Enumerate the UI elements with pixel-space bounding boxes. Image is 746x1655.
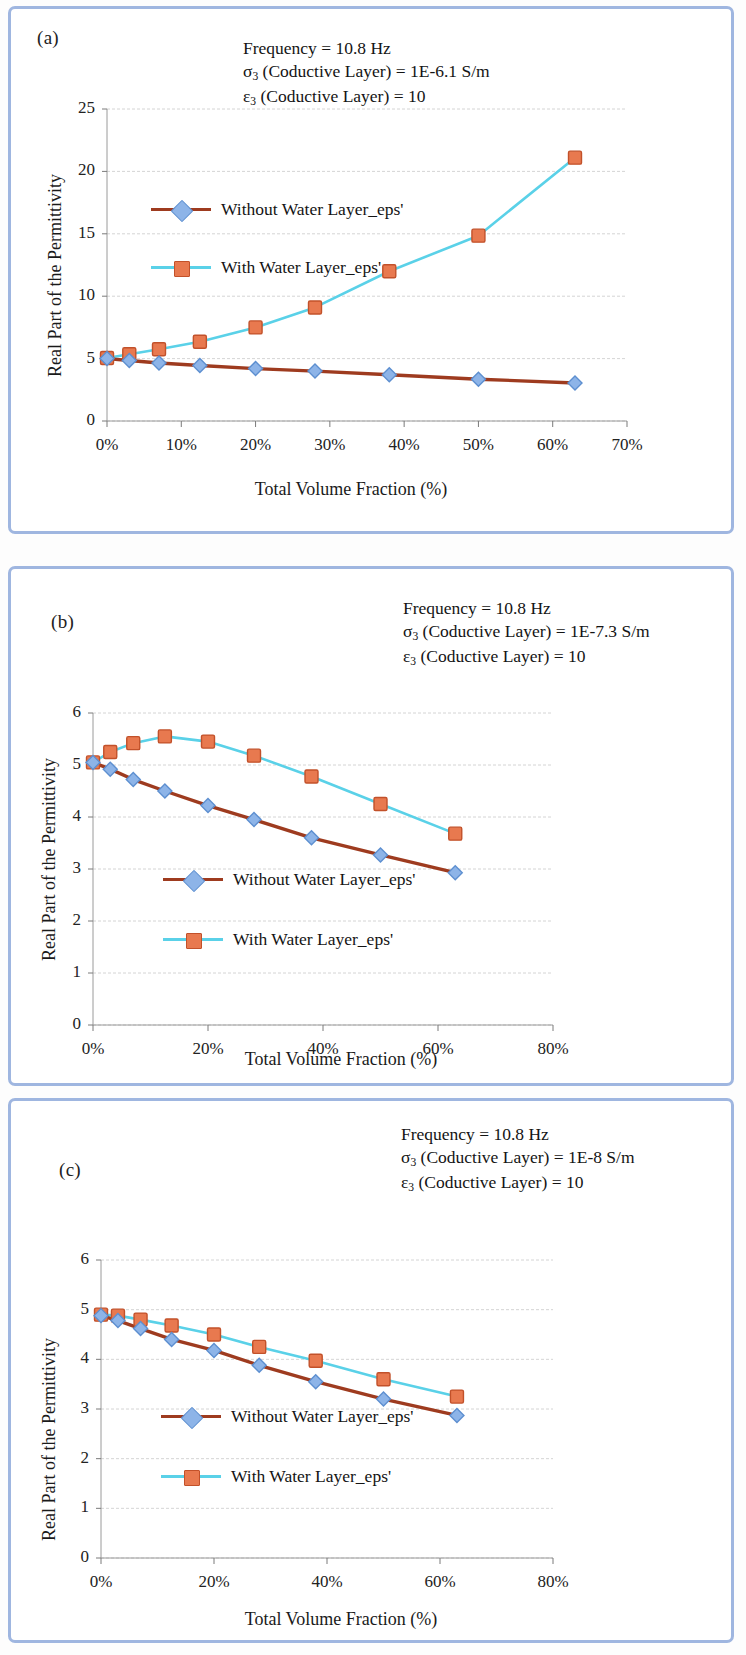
data-point-marker xyxy=(374,798,387,811)
data-point-marker xyxy=(153,343,166,356)
data-point-marker xyxy=(450,1390,463,1403)
square-marker-icon xyxy=(174,261,190,277)
legend-swatch-with-water-b xyxy=(163,932,223,948)
x-tick-label: 20% xyxy=(224,435,288,455)
data-point-marker xyxy=(158,730,171,743)
y-tick-label: 0 xyxy=(39,1547,89,1567)
data-point-marker xyxy=(207,1343,221,1357)
y-tick-label: 2 xyxy=(39,1448,89,1468)
y-tick-label: 0 xyxy=(45,410,95,430)
data-point-marker xyxy=(193,335,206,348)
data-point-marker xyxy=(249,362,263,376)
y-tick-label: 6 xyxy=(31,702,81,722)
y-tick-label: 10 xyxy=(45,285,95,305)
data-point-marker xyxy=(374,848,388,862)
series-line-without_water xyxy=(101,1316,457,1416)
diamond-marker-icon xyxy=(181,1406,204,1429)
x-tick-label: 60% xyxy=(521,435,585,455)
panel-a-content: (a) Frequency = 10.8 Hz σ3 (Coductive La… xyxy=(11,9,731,531)
annotation-a: Frequency = 10.8 Hz σ3 (Coductive Layer)… xyxy=(243,37,490,110)
y-tick-label: 15 xyxy=(45,223,95,243)
data-point-marker xyxy=(165,1319,178,1332)
y-tick-label: 3 xyxy=(31,858,81,878)
data-point-marker xyxy=(253,1340,266,1353)
y-tick-label: 20 xyxy=(45,160,95,180)
y-tick-label: 4 xyxy=(39,1348,89,1368)
legend-entry-a-0: Without Water Layer_eps' xyxy=(151,199,403,220)
annotation-c-line2: σ3 (Coductive Layer) = 1E-8 S/m xyxy=(401,1146,635,1171)
y-tick-label: 5 xyxy=(31,754,81,774)
data-point-marker xyxy=(471,372,485,386)
data-point-marker xyxy=(308,364,322,378)
x-tick-label: 20% xyxy=(182,1572,246,1592)
x-tick-label: 10% xyxy=(149,435,213,455)
legend-label-a-1: With Water Layer_eps' xyxy=(211,257,381,278)
legend-entry-b-0: Without Water Layer_eps' xyxy=(163,869,415,890)
figure-page: (a) Frequency = 10.8 Hz σ3 (Coductive La… xyxy=(0,0,746,1655)
y-tick-label: 25 xyxy=(45,98,95,118)
data-point-marker xyxy=(309,1354,322,1367)
series-line-with_water xyxy=(101,1315,457,1397)
chart-panel-c: (c) Frequency = 10.8 Hz σ3 (Coductive La… xyxy=(8,1098,734,1643)
data-point-marker xyxy=(305,770,318,783)
data-point-marker xyxy=(202,735,215,748)
data-point-marker xyxy=(252,1358,266,1372)
legend-label-c-1: With Water Layer_eps' xyxy=(221,1466,391,1487)
y-axis-title-a: Real Part of the Permittivity xyxy=(45,174,66,377)
annotation-a-line2: σ3 (Coductive Layer) = 1E-6.1 S/m xyxy=(243,60,490,85)
x-tick-label: 0% xyxy=(75,435,139,455)
data-point-marker xyxy=(448,866,462,880)
data-point-marker xyxy=(165,1332,179,1346)
diamond-marker-icon xyxy=(171,199,194,222)
data-point-marker xyxy=(450,1408,464,1422)
x-tick-label: 40% xyxy=(295,1572,359,1592)
y-tick-label: 5 xyxy=(39,1299,89,1319)
y-tick-label: 5 xyxy=(45,348,95,368)
annotation-c-line3: ε3 (Coductive Layer) = 10 xyxy=(401,1171,635,1196)
legend-label-c-0: Without Water Layer_eps' xyxy=(221,1406,413,1427)
data-point-marker xyxy=(104,746,117,759)
data-point-marker xyxy=(201,799,215,813)
diamond-marker-icon xyxy=(183,869,206,892)
x-axis-title-c: Total Volume Fraction (%) xyxy=(121,1609,561,1630)
y-tick-label: 1 xyxy=(31,962,81,982)
data-point-marker xyxy=(193,358,207,372)
x-tick-label: 70% xyxy=(595,435,659,455)
data-point-marker xyxy=(449,827,462,840)
data-point-marker xyxy=(208,1328,221,1341)
data-point-marker xyxy=(377,1392,391,1406)
legend-label-b-0: Without Water Layer_eps' xyxy=(223,869,415,890)
panel-label-a: (a) xyxy=(37,27,59,49)
y-tick-label: 4 xyxy=(31,806,81,826)
data-point-marker xyxy=(377,1373,390,1386)
data-point-marker xyxy=(247,813,261,827)
chart-panel-a: (a) Frequency = 10.8 Hz σ3 (Coductive La… xyxy=(8,6,734,534)
annotation-c-line1: Frequency = 10.8 Hz xyxy=(401,1123,635,1146)
y-tick-label: 1 xyxy=(39,1497,89,1517)
annotation-a-line3: ε3 (Coductive Layer) = 10 xyxy=(243,85,490,110)
x-tick-label: 0% xyxy=(61,1039,125,1059)
panel-label-b: (b) xyxy=(51,611,74,633)
data-point-marker xyxy=(383,265,396,278)
panel-c-content: (c) Frequency = 10.8 Hz σ3 (Coductive La… xyxy=(11,1101,731,1640)
data-point-marker xyxy=(126,773,140,787)
legend-entry-b-1: With Water Layer_eps' xyxy=(163,929,393,950)
legend-entry-c-1: With Water Layer_eps' xyxy=(161,1466,391,1487)
annotation-c: Frequency = 10.8 Hz σ3 (Coductive Layer)… xyxy=(401,1123,635,1196)
x-tick-label: 80% xyxy=(521,1039,585,1059)
data-point-marker xyxy=(309,1375,323,1389)
legend-swatch-with-water-c xyxy=(161,1469,221,1485)
annotation-b-line3: ε3 (Coductive Layer) = 10 xyxy=(403,645,650,670)
x-tick-label: 60% xyxy=(408,1572,472,1592)
x-tick-label: 30% xyxy=(298,435,362,455)
y-tick-label: 6 xyxy=(39,1249,89,1269)
x-tick-label: 60% xyxy=(406,1039,470,1059)
x-axis-title-a: Total Volume Fraction (%) xyxy=(131,479,571,500)
series-line-without_water xyxy=(93,762,455,872)
data-point-marker xyxy=(103,762,117,776)
x-tick-label: 20% xyxy=(176,1039,240,1059)
data-point-marker xyxy=(127,737,140,750)
annotation-a-line1: Frequency = 10.8 Hz xyxy=(243,37,490,60)
y-tick-label: 3 xyxy=(39,1398,89,1418)
data-point-marker xyxy=(305,831,319,845)
